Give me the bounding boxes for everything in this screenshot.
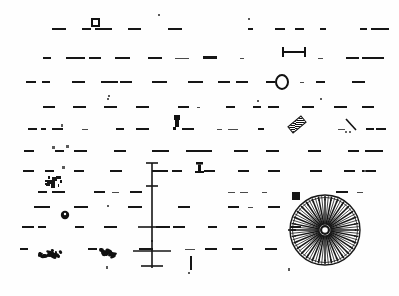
ink-speck [107, 98, 109, 100]
text-fragment [148, 57, 162, 59]
text-fragment [228, 192, 235, 193]
text-fragment [258, 128, 264, 130]
ink-blob-cluster-mid [98, 248, 118, 258]
text-fragment [43, 106, 55, 108]
short-vertical-tick [190, 256, 192, 270]
text-fragment [334, 106, 347, 108]
square-outline-marker [91, 18, 100, 27]
text-fragment [168, 28, 182, 30]
bracket-icon [194, 162, 205, 174]
ink-speck [320, 98, 322, 100]
ink-speck [52, 146, 55, 149]
text-fragment [43, 57, 51, 59]
text-fragment [82, 129, 88, 130]
text-fragment [228, 206, 239, 208]
text-fragment [310, 170, 322, 172]
text-fragment [89, 57, 101, 59]
text-fragment [228, 129, 238, 130]
ink-speck [108, 95, 110, 97]
text-fragment [94, 191, 105, 193]
text-fragment [20, 248, 28, 250]
text-fragment [188, 81, 203, 83]
text-fragment [152, 81, 167, 83]
text-fragment [104, 226, 117, 228]
text-fragment [362, 106, 374, 108]
text-fragment [218, 81, 230, 83]
radial-rosette-wheel [288, 193, 362, 267]
text-fragment [136, 128, 149, 130]
text-fragment [38, 226, 46, 228]
text-fragment [205, 248, 217, 250]
ink-speck [47, 180, 51, 184]
text-fragment [232, 248, 243, 250]
ink-speck [58, 184, 60, 187]
text-fragment [362, 170, 376, 172]
text-fragment [204, 170, 215, 172]
text-fragment [74, 150, 87, 152]
text-fragment [23, 170, 34, 172]
post-icon [172, 115, 182, 130]
text-fragment [52, 28, 66, 30]
text-fragment [371, 28, 389, 30]
text-fragment [295, 28, 304, 30]
circle-leader-icon [266, 73, 296, 91]
text-fragment [82, 28, 91, 30]
text-fragment [95, 28, 112, 30]
text-fragment [240, 58, 244, 59]
text-fragment [366, 128, 374, 130]
text-fragment [352, 81, 365, 83]
ink-speck [158, 14, 160, 16]
text-fragment [217, 129, 222, 130]
text-fragment [55, 150, 64, 152]
rosette-icon [288, 193, 362, 267]
text-fragment [376, 128, 386, 130]
text-fragment [41, 128, 46, 130]
text-fragment [316, 81, 325, 83]
text-fragment [253, 106, 261, 108]
text-fragment [360, 28, 367, 30]
text-fragment [268, 170, 280, 172]
text-fragment [268, 106, 279, 108]
text-fragment [300, 82, 304, 83]
text-fragment [185, 249, 195, 250]
text-fragment [74, 206, 88, 208]
text-fragment [42, 81, 50, 83]
filled-dot-icon [60, 210, 70, 220]
ink-speck [61, 124, 63, 127]
ink-speck [257, 100, 259, 102]
text-fragment [52, 128, 63, 130]
text-fragment [262, 192, 267, 193]
text-fragment [74, 170, 84, 172]
ink-speck [106, 266, 108, 269]
text-fragment [120, 81, 132, 83]
text-fragment [302, 106, 314, 108]
text-fragment [344, 170, 355, 172]
ink-speck [48, 176, 50, 179]
text-fragment [320, 28, 326, 30]
vertical-mast-with-crossbars [130, 160, 174, 271]
text-fragment [52, 191, 65, 193]
text-fragment [110, 170, 122, 172]
circle-outline-with-leader [266, 73, 296, 91]
text-fragment [248, 28, 253, 30]
text-fragment [265, 248, 277, 250]
text-fragment [348, 150, 359, 152]
text-fragment [197, 107, 200, 108]
dumbbell-marker [280, 46, 310, 58]
ink-blob-cluster-left [36, 248, 66, 258]
text-fragment [72, 81, 85, 83]
text-fragment [203, 56, 217, 59]
ink-speck [52, 177, 57, 181]
text-fragment [365, 150, 383, 152]
filled-dot-glyph [60, 210, 70, 220]
text-fragment [234, 150, 248, 152]
text-fragment [226, 106, 235, 108]
text-fragment [238, 226, 247, 228]
ink-speck [51, 185, 55, 188]
text-fragment [28, 128, 37, 130]
chevron-icon [344, 118, 360, 134]
text-fragment [178, 206, 190, 208]
dumbbell-icon [280, 46, 310, 58]
text-fragment [238, 170, 249, 172]
text-fragment [318, 58, 323, 59]
